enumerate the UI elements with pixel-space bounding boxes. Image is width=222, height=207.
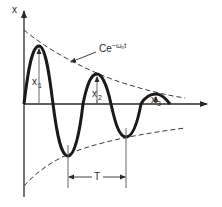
envelope-label-exponent: −ωnt (112, 42, 126, 49)
envelope-label: Ce−ωnt (99, 44, 126, 55)
period-label: T (94, 172, 100, 182)
damped-oscillation-diagram (0, 0, 222, 207)
amplitude-x1-label: x1 (32, 77, 42, 88)
envelope-label-base: Ce (99, 43, 112, 54)
amplitude-x3-label: x3 (151, 95, 161, 106)
envelope-pointer-arrow (71, 52, 96, 62)
amplitude-x2-label: x2 (92, 89, 102, 100)
y-axis-label: x (12, 5, 17, 15)
